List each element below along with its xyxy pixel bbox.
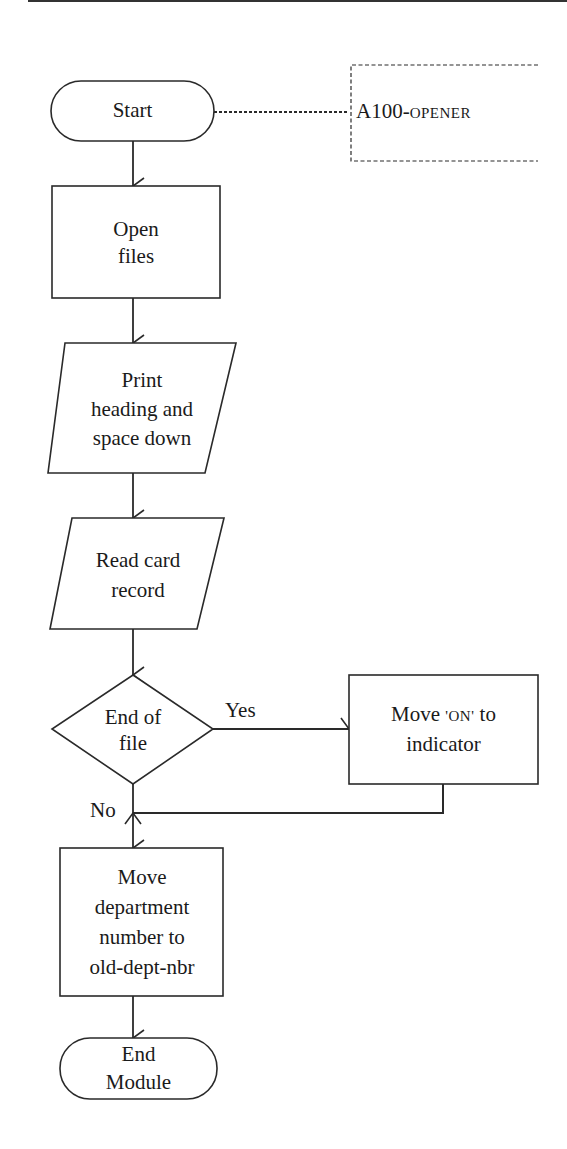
print-line-3: space down <box>52 424 232 453</box>
end-line-2: Module <box>60 1068 217 1096</box>
decision-line-1: End of <box>73 704 193 730</box>
move-dept-line-2: department <box>56 892 228 922</box>
end-module-label: End Module <box>60 1040 217 1096</box>
module-annotation-label: A100-OPENER <box>356 98 546 127</box>
end-line-1: End <box>60 1040 217 1068</box>
on-literal: 'ON' <box>445 708 474 724</box>
open-files-line-1: Open <box>52 216 220 243</box>
move-on-line-1: Move 'ON' to <box>349 700 538 730</box>
module-name: OPENER <box>410 105 471 121</box>
move-dept-line-3: number to <box>56 922 228 952</box>
no-text: No <box>90 798 116 822</box>
no-label: No <box>90 797 130 824</box>
start-text: Start <box>113 98 153 122</box>
move-dept-line-1: Move <box>56 862 228 892</box>
read-line-1: Read card <box>58 545 218 575</box>
module-prefix: A100- <box>356 99 410 123</box>
open-files-line-2: files <box>52 243 220 270</box>
yes-label: Yes <box>225 697 285 724</box>
move-on-line-2: indicator <box>349 730 538 758</box>
print-line-2: heading and <box>52 395 232 424</box>
move-on-suffix: to <box>474 702 496 726</box>
end-of-file-label: End of file <box>73 704 193 756</box>
move-on-prefix: Move <box>391 702 445 726</box>
open-files-label: Open files <box>52 216 220 270</box>
read-card-label: Read card record <box>58 545 218 605</box>
decision-line-2: file <box>73 730 193 756</box>
read-line-2: record <box>58 575 218 605</box>
yes-text: Yes <box>225 698 256 722</box>
move-dept-line-4: old-dept-nbr <box>56 952 228 982</box>
print-line-1: Print <box>52 366 232 395</box>
arrow-return-to-main <box>133 784 443 813</box>
move-on-label: Move 'ON' to indicator <box>349 700 538 758</box>
print-heading-label: Print heading and space down <box>52 366 232 453</box>
start-label: Start <box>51 97 214 124</box>
move-dept-label: Move department number to old-dept-nbr <box>56 862 228 982</box>
